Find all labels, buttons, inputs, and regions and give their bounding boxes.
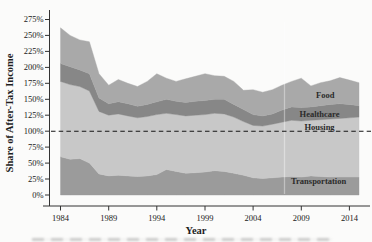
series-label-housing: Housing bbox=[304, 122, 335, 132]
series-label-food: Food bbox=[316, 90, 335, 100]
x-tick-label-2014: 2014 bbox=[341, 213, 359, 223]
y-tick-label-200: 200% bbox=[24, 62, 44, 72]
y-tick-label-100: 100% bbox=[24, 126, 44, 136]
x-tick-label-2009: 2009 bbox=[293, 213, 310, 223]
y-tick-label-225: 225% bbox=[24, 46, 44, 56]
y-tick-label-275: 275% bbox=[24, 14, 44, 24]
chart-figure: 0%25%50%75%100%125%150%175%200%225%250%2… bbox=[0, 0, 372, 242]
cropped-caption-artifact bbox=[32, 238, 332, 241]
y-tick-label-50: 50% bbox=[28, 158, 44, 168]
y-ticks: 0%25%50%75%100%125%150%175%200%225%250%2… bbox=[24, 14, 50, 200]
series-label-healthcare: Healthcare bbox=[300, 109, 340, 119]
series-label-transportation: Transportation bbox=[291, 176, 346, 186]
x-ticks: 1984198919941999200420092014 bbox=[52, 206, 359, 223]
stacked-area-chart: 0%25%50%75%100%125%150%175%200%225%250%2… bbox=[0, 0, 372, 242]
x-tick-label-1999: 1999 bbox=[197, 213, 214, 223]
x-tick-label-1984: 1984 bbox=[52, 213, 70, 223]
x-axis-title: Year bbox=[186, 225, 207, 236]
y-tick-label-175: 175% bbox=[24, 78, 44, 88]
y-tick-label-75: 75% bbox=[28, 142, 44, 152]
y-tick-label-150: 150% bbox=[24, 94, 44, 104]
y-tick-label-125: 125% bbox=[24, 110, 44, 120]
y-tick-label-0: 0% bbox=[32, 190, 43, 200]
y-tick-label-250: 250% bbox=[24, 30, 44, 40]
x-tick-label-1994: 1994 bbox=[148, 213, 166, 223]
y-tick-label-25: 25% bbox=[28, 174, 44, 184]
y-axis-title: Share of After-Tax Income bbox=[4, 53, 15, 172]
x-tick-label-1989: 1989 bbox=[100, 213, 117, 223]
x-tick-label-2004: 2004 bbox=[245, 213, 263, 223]
